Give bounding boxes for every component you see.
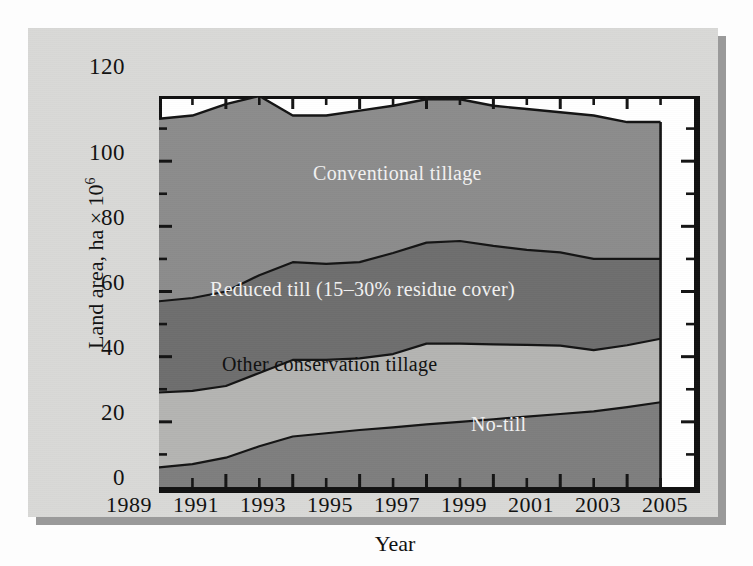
series-label-no-till: No-till [471, 413, 526, 436]
figure-root: Land area, ha × 106 0 20 40 60 80 100 12… [0, 0, 753, 566]
y-tick-label-80: 80 [63, 205, 125, 231]
y-tick-label-0: 0 [63, 465, 125, 491]
x-axis-title: Year [315, 531, 475, 557]
y-axis-title-exponent: 6 [83, 177, 98, 184]
y-tick-label-40: 40 [63, 335, 125, 361]
y-tick-label-100: 100 [63, 140, 125, 166]
y-tick-label-20: 20 [63, 400, 125, 426]
plot-frame-right-edge [694, 96, 698, 493]
x-tick-label-2005: 2005 [622, 492, 708, 518]
figure-panel: Land area, ha × 106 0 20 40 60 80 100 12… [28, 28, 718, 517]
series-label-conventional-tillage: Conventional tillage [313, 162, 482, 185]
series-label-other-conservation-tillage: Other conservation tillage [222, 353, 438, 376]
y-tick-label-60: 60 [63, 270, 125, 296]
series-label-reduced-till: Reduced till (15–30% residue cover) [210, 278, 515, 301]
y-tick-label-120: 120 [63, 54, 125, 80]
